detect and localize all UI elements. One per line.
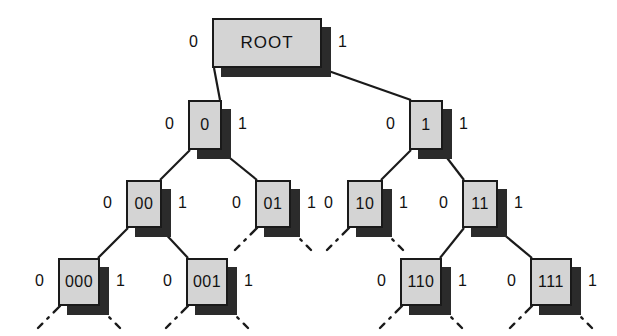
tree-node-label: 001 bbox=[193, 273, 221, 291]
edge-label-right-001: 1 bbox=[244, 272, 253, 290]
tree-node-01[interactable]: 01 bbox=[255, 180, 291, 228]
tree-node-11[interactable]: 11 bbox=[462, 180, 498, 228]
tree-node-00[interactable]: 00 bbox=[126, 180, 162, 228]
tree-edge bbox=[320, 68, 411, 100]
tree-node-label: 111 bbox=[538, 273, 564, 291]
node-shadow-bottom bbox=[471, 228, 507, 237]
edge-label-left-0: 0 bbox=[165, 115, 174, 133]
node-shadow-bottom bbox=[221, 68, 331, 77]
edge-label-left-00: 0 bbox=[103, 194, 112, 212]
tree-node-label: 1 bbox=[421, 116, 430, 134]
edge-label-left-110: 0 bbox=[377, 272, 386, 290]
tree-node-0[interactable]: 0 bbox=[188, 100, 222, 150]
tree-node-111[interactable]: 111 bbox=[530, 258, 572, 306]
tree-edge bbox=[440, 228, 464, 258]
tree-node-root[interactable]: ROOT bbox=[212, 18, 322, 68]
node-shadow-bottom bbox=[67, 306, 109, 315]
edge-label-right-00: 1 bbox=[178, 194, 187, 212]
tree-edge-dotted bbox=[510, 306, 532, 328]
binary-tree-diagram: ROOT010011010001010110011101000010010111… bbox=[0, 0, 617, 336]
edge-label-right-11: 1 bbox=[514, 194, 523, 212]
node-shadow-bottom bbox=[418, 150, 452, 159]
edge-label-right-01: 1 bbox=[307, 194, 316, 212]
tree-node-label: 0 bbox=[200, 116, 209, 134]
tree-node-label: 10 bbox=[356, 195, 375, 213]
edge-label-right-110: 1 bbox=[458, 272, 467, 290]
edge-label-left-01: 0 bbox=[232, 194, 241, 212]
tree-edge bbox=[214, 68, 220, 100]
tree-edge bbox=[160, 150, 190, 180]
tree-node-000[interactable]: 000 bbox=[58, 258, 100, 306]
edge-label-right-1: 1 bbox=[459, 115, 468, 133]
tree-edge-dotted bbox=[235, 228, 257, 250]
tree-edge-dotted bbox=[380, 306, 402, 328]
tree-node-label: 000 bbox=[65, 273, 93, 291]
tree-edge-dotted bbox=[166, 306, 188, 328]
tree-node-label: 01 bbox=[264, 195, 283, 213]
node-shadow-bottom bbox=[356, 228, 392, 237]
tree-node-label: 11 bbox=[471, 195, 489, 213]
tree-node-110[interactable]: 110 bbox=[400, 258, 442, 306]
tree-edge-dotted bbox=[327, 228, 349, 250]
tree-edge-dotted bbox=[38, 306, 60, 328]
node-shadow-bottom bbox=[539, 306, 581, 315]
node-shadow-bottom bbox=[409, 306, 451, 315]
edge-label-left-001: 0 bbox=[163, 272, 172, 290]
edge-label-left-11: 0 bbox=[439, 194, 448, 212]
tree-node-1[interactable]: 1 bbox=[409, 100, 443, 150]
node-shadow-bottom bbox=[135, 228, 171, 237]
node-shadow-bottom bbox=[195, 306, 237, 315]
node-shadow-bottom bbox=[197, 150, 231, 159]
tree-node-label: ROOT bbox=[240, 33, 293, 53]
tree-node-label: 110 bbox=[407, 273, 434, 291]
tree-node-label: 00 bbox=[135, 195, 154, 213]
edge-label-right-10: 1 bbox=[399, 194, 408, 212]
node-shadow-bottom bbox=[264, 228, 300, 237]
edge-label-left-000: 0 bbox=[35, 272, 44, 290]
tree-node-001[interactable]: 001 bbox=[186, 258, 228, 306]
edge-label-left-111: 0 bbox=[507, 272, 516, 290]
tree-edge bbox=[98, 228, 128, 258]
tree-node-10[interactable]: 10 bbox=[347, 180, 383, 228]
edge-label-right-0: 1 bbox=[238, 115, 247, 133]
edge-label-left-1: 0 bbox=[386, 115, 395, 133]
edge-label-right-000: 1 bbox=[116, 272, 125, 290]
edge-label-right-111: 1 bbox=[588, 272, 597, 290]
edge-label-left-10: 0 bbox=[324, 194, 333, 212]
edge-label-left-root: 0 bbox=[189, 33, 198, 51]
tree-edge bbox=[381, 150, 411, 180]
edge-label-right-root: 1 bbox=[338, 33, 347, 51]
